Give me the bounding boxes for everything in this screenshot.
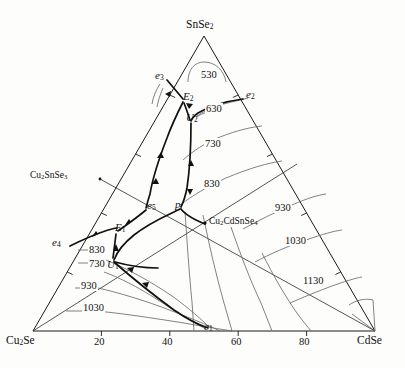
point-label-e2: e2 bbox=[246, 88, 255, 101]
point-label-E1: E1 bbox=[115, 221, 125, 234]
axis-ticks bbox=[67, 95, 341, 336]
isotherm-label-730-left: 730 bbox=[88, 258, 106, 269]
ternary-phase-diagram: SnSe2 Cu2Se CdSe 20 40 60 80 Cu2SnSe3 Cu… bbox=[0, 0, 405, 368]
isotherm-label-930-right: 930 bbox=[274, 202, 292, 213]
point-label-E2: E2 bbox=[183, 90, 193, 103]
isotherm-label-830-right: 830 bbox=[203, 178, 221, 189]
isotherm-label-730-right: 730 bbox=[204, 138, 222, 149]
corner-label-cdse: CdSe bbox=[357, 334, 382, 346]
corner-label-cu2se: Cu2Se bbox=[6, 334, 35, 347]
point-label-U2: U2 bbox=[186, 111, 198, 124]
point-label-e4: e4 bbox=[52, 236, 61, 249]
axis-tick-40: 40 bbox=[162, 336, 173, 347]
axis-tick-80: 80 bbox=[299, 336, 310, 347]
isotherm-label-830-left: 830 bbox=[88, 244, 106, 255]
point-label-e1: e1 bbox=[204, 320, 213, 333]
axis-tick-60: 60 bbox=[231, 336, 242, 347]
point-label-e3: e3 bbox=[155, 69, 164, 82]
axis-tick-20: 20 bbox=[94, 336, 105, 347]
point-label-p: p bbox=[175, 198, 181, 210]
compound-label-cu2cdsnse4: Cu2CdSnSe4 bbox=[209, 216, 258, 226]
isotherm-label-630: 630 bbox=[205, 103, 223, 114]
corner-label-snse2: SnSe2 bbox=[186, 18, 213, 31]
isotherm-label-1130: 1130 bbox=[302, 275, 325, 286]
isotherm-label-1030-right: 1030 bbox=[284, 235, 307, 246]
compound-label-cu2snse3: Cu2SnSe3 bbox=[30, 170, 67, 180]
isotherm-label-930-left: 930 bbox=[80, 280, 98, 291]
isotherm-label-1030-left: 1030 bbox=[82, 302, 105, 313]
point-label-e5: e5 bbox=[147, 199, 156, 212]
point-label-U1: U1 bbox=[107, 258, 119, 271]
isotherm-label-530: 530 bbox=[200, 69, 218, 80]
